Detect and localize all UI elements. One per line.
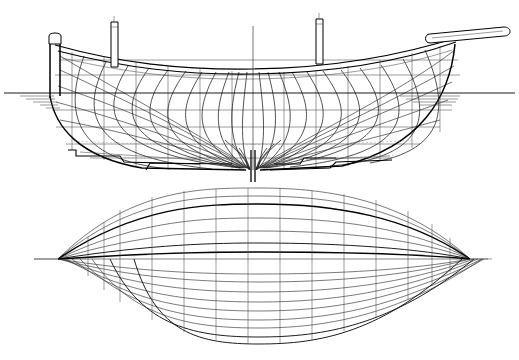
mast-stub-aft[interactable] [111, 16, 118, 67]
mast-stub-forward[interactable] [316, 13, 323, 64]
canvas-background [0, 0, 519, 360]
lines-plan-canvas [0, 0, 519, 360]
lines-plan-drawing [0, 0, 519, 360]
